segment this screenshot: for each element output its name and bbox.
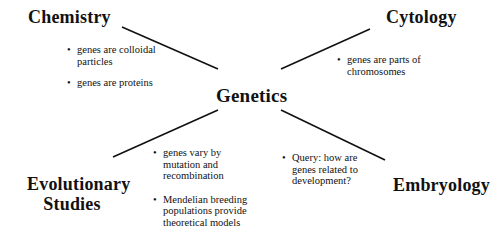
list-item: •genes are proteins	[67, 77, 167, 89]
list-item: •Mendelian breeding populations provide …	[153, 194, 249, 229]
bullet-icon: •	[153, 194, 157, 206]
node-embryology: Embryology	[393, 175, 490, 195]
node-cytology: Cytology	[386, 7, 457, 27]
list-item: •genes are parts of chromosomes	[337, 54, 427, 77]
node-chemistry: Chemistry	[28, 7, 111, 27]
node-evolutionary-studies: Evolutionary Studies	[27, 174, 117, 214]
center-node-genetics: Genetics	[216, 86, 287, 106]
bullet-icon: •	[67, 77, 71, 89]
bullet-icon: •	[337, 54, 341, 66]
list-item: •Query: how are genes related to develop…	[282, 152, 364, 187]
list-item: •genes are colloidal particles	[67, 44, 167, 67]
chemistry-bullets: •genes are colloidal particles •genes ar…	[67, 44, 167, 99]
embryology-bullets: •Query: how are genes related to develop…	[282, 152, 364, 197]
evolutionary-bullets: •genes vary by mutation and recombinatio…	[153, 147, 249, 238]
bullet-icon: •	[153, 147, 157, 159]
evolutionary-line1: Evolutionary	[27, 174, 117, 194]
bullet-icon: •	[282, 152, 286, 164]
list-item: •genes vary by mutation and recombinatio…	[153, 147, 249, 182]
cytology-bullets: •genes are parts of chromosomes	[337, 54, 427, 87]
evolutionary-line2: Studies	[27, 194, 117, 214]
bullet-icon: •	[67, 44, 71, 56]
